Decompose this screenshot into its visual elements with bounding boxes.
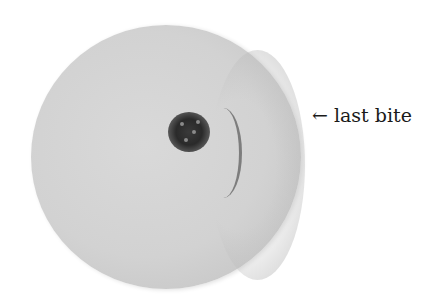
annotation-label: ← last bite: [312, 104, 412, 126]
annotation-text: last bite: [334, 104, 412, 126]
speck: [192, 130, 196, 134]
food-spot: [168, 112, 210, 152]
left-arrow-icon: ←: [312, 104, 328, 126]
last-bite-arc: [205, 108, 242, 198]
speck: [184, 138, 188, 142]
speck: [196, 120, 200, 124]
speck: [180, 122, 184, 126]
